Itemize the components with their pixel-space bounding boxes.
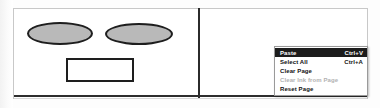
menu-item-clear-page[interactable]: Clear Page (275, 66, 367, 75)
menu-item-reset-page-label: Reset Page (280, 86, 313, 92)
menu-item-clear-ink-from-page: Clear Ink from Page (275, 75, 367, 84)
menu-item-paste[interactable]: Paste Ctrl+V (275, 48, 367, 57)
context-menu[interactable]: Paste Ctrl+V Select All Ctrl+A Clear Pag… (274, 46, 368, 96)
menu-item-clear-ink-from-page-label: Clear Ink from Page (280, 77, 338, 83)
shape-ellipse-two[interactable] (105, 23, 173, 45)
panel-divider (198, 8, 200, 99)
menu-item-select-all[interactable]: Select All Ctrl+A (275, 57, 367, 66)
bottom-rule-shadow (14, 98, 367, 99)
menu-item-paste-shortcut: Ctrl+V (337, 50, 363, 56)
menu-item-paste-label: Paste (280, 50, 297, 56)
shape-ellipse-one[interactable] (27, 22, 93, 45)
scanned-page-root: Paste Ctrl+V Select All Ctrl+A Clear Pag… (0, 0, 380, 108)
menu-item-clear-page-label: Clear Page (280, 68, 312, 74)
scan-edge-artifact (0, 0, 13, 108)
menu-item-select-all-label: Select All (280, 59, 308, 65)
menu-item-reset-page[interactable]: Reset Page (275, 84, 367, 93)
menu-item-select-all-shortcut: Ctrl+A (336, 59, 363, 65)
shape-rectangle-one[interactable] (66, 58, 134, 82)
left-drawing-canvas[interactable] (14, 9, 198, 95)
